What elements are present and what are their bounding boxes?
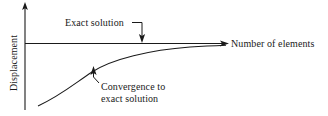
convergence-leader-diagonal	[94, 77, 100, 83]
x-axis-label: Number of elements	[231, 38, 314, 49]
convergence-diagram: Displacement Number of elements Exact so…	[0, 0, 328, 116]
y-axis	[22, 2, 28, 110]
convergence-annotation-line2: exact solution	[101, 93, 158, 104]
exact-solution-annotation: Exact solution	[65, 17, 124, 28]
y-axis-label-container: Displacement	[8, 25, 20, 101]
y-axis-label: Displacement	[8, 25, 19, 101]
exact-solution-leader	[132, 23, 145, 44]
convergence-annotation-line1: Convergence to	[101, 81, 165, 92]
convergence-annotation: Convergence to exact solution	[101, 81, 191, 105]
x-axis	[25, 40, 229, 46]
